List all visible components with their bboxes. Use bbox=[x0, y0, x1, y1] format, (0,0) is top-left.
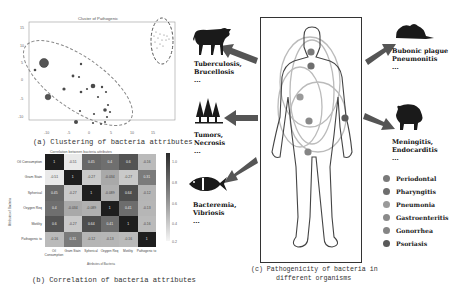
legend-item: Periodontal bbox=[383, 173, 436, 183]
trees-icon bbox=[195, 97, 223, 125]
pig-disease-2: Endocarditis bbox=[392, 146, 438, 154]
cattle-disease-1: Tuberculosis, bbox=[194, 60, 242, 68]
fish-disease-1: Bacteremia, bbox=[193, 201, 236, 209]
fish-more: ... bbox=[193, 217, 200, 225]
legend-dot-icon bbox=[383, 175, 390, 182]
legend-item: Psoriasis bbox=[383, 238, 427, 248]
fish-icon bbox=[188, 175, 228, 193]
fish-disease-2: Vibriosis bbox=[193, 209, 224, 217]
legend-item: Pharyngitis bbox=[383, 186, 436, 196]
legend-label: Psoriasis bbox=[396, 240, 427, 247]
rat-disease-1: Bubonic plague bbox=[392, 47, 448, 55]
cattle-more: ... bbox=[194, 76, 201, 84]
legend-label: Pneumonia bbox=[396, 201, 435, 208]
caption-c-line1: (c) Pathogenicity of bacteria in bbox=[251, 266, 378, 273]
legend-label: Gonorrhea bbox=[396, 227, 433, 234]
trees-disease-2: Necrosis bbox=[194, 139, 225, 147]
legend-dot-icon bbox=[383, 188, 390, 195]
caption-c-line2: different organisms bbox=[276, 275, 351, 282]
trees-disease-1: Tumors, bbox=[194, 131, 223, 139]
legend-item: Pneumonia bbox=[383, 199, 435, 209]
pig-disease-1: Meningitis, bbox=[392, 138, 433, 146]
legend-label: Pharyngitis bbox=[396, 188, 436, 195]
trees-more: ... bbox=[194, 147, 201, 155]
legend-dot-icon bbox=[383, 214, 390, 221]
rat-disease-2: Pneumonitis bbox=[392, 55, 437, 63]
cattle-disease-2: Brucellosis bbox=[194, 68, 234, 76]
legend-item: Gastroenteritis bbox=[383, 212, 449, 222]
rat-icon bbox=[394, 22, 434, 40]
pig-more: ... bbox=[392, 154, 399, 162]
legend-dot-icon bbox=[383, 227, 390, 234]
legend-dot-icon bbox=[383, 240, 390, 247]
rat-more: ... bbox=[392, 63, 399, 71]
legend-label: Periodontal bbox=[396, 175, 436, 182]
pig-icon bbox=[394, 103, 424, 131]
cattle-icon bbox=[193, 25, 233, 57]
legend-item: Gonorrhea bbox=[383, 225, 433, 235]
legend-label: Gastroenteritis bbox=[396, 214, 449, 221]
legend-dot-icon bbox=[383, 201, 390, 208]
